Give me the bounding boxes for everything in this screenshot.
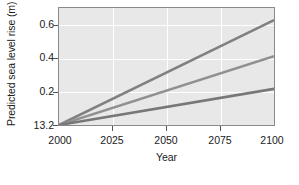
y-tick-label: 0.2: [22, 86, 54, 97]
x-tick-mark: [112, 126, 113, 131]
series-line-high: [59, 20, 274, 125]
y-tick-label: 13.2: [22, 120, 54, 131]
data-lines: [59, 8, 274, 125]
x-tick-label: 2100: [249, 134, 295, 146]
x-axis-title: Year: [58, 151, 275, 163]
x-tick-label: 2075: [197, 134, 243, 146]
y-tick-label: 0.6: [22, 19, 54, 30]
x-tick-mark: [166, 126, 167, 131]
x-tick-mark: [220, 126, 221, 131]
x-tick-label: 2000: [37, 134, 83, 146]
plot-area: [58, 7, 275, 126]
x-tick-label: 2050: [143, 134, 189, 146]
y-axis-title: Predicted sea level rise (m): [4, 7, 18, 126]
series-line-low: [59, 89, 274, 125]
y-axis-tick-labels: 0.6 0.4 0.2 13.2: [20, 0, 54, 185]
y-tick-label: 0.4: [22, 52, 54, 63]
chart-figure: Predicted sea level rise (m) 0.6 0.4 0.2…: [0, 0, 299, 185]
series-line-mid: [59, 56, 274, 125]
x-tick-label: 2025: [89, 134, 135, 146]
